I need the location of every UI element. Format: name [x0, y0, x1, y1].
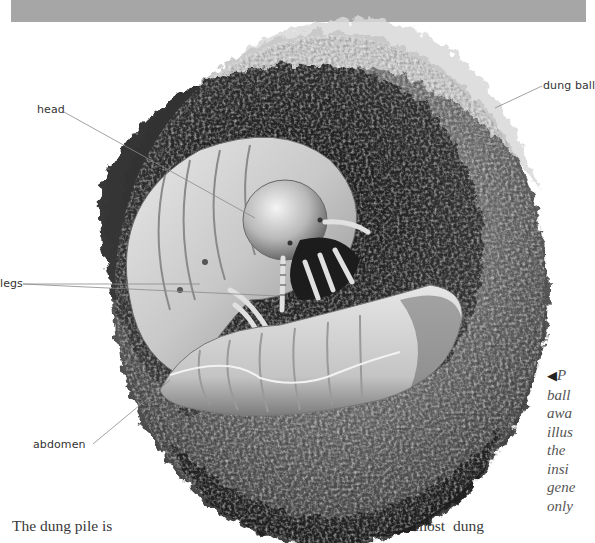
body-text-right: most dung: [415, 517, 484, 535]
body-text-left: The dung pile is: [12, 517, 112, 535]
caption-arrow-icon: ◀: [547, 368, 557, 383]
caption-line: insi: [547, 461, 569, 477]
caption-line: ball: [547, 387, 570, 403]
caption-line: illus: [547, 424, 573, 440]
caption-line: awa: [547, 405, 572, 421]
label-abdomen: abdomen: [33, 438, 86, 451]
caption-line: gene: [547, 479, 575, 495]
label-head: head: [37, 103, 65, 116]
label-dung-ball: dung ball: [543, 79, 595, 92]
caption-line: P: [557, 367, 566, 383]
caption-line: only: [547, 498, 573, 514]
caption-line: the: [547, 442, 565, 458]
label-legs: legs: [0, 277, 23, 290]
figure-caption: ◀P ball awa illus the insi gene only: [547, 366, 575, 515]
